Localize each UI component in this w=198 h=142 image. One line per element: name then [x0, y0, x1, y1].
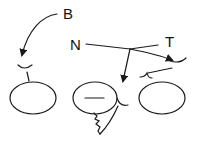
middle-wavy — [94, 113, 100, 134]
arrow-b — [22, 14, 57, 55]
arrow-n-to-right — [130, 49, 172, 60]
label-n: N — [70, 37, 81, 52]
label-t: T — [165, 34, 174, 49]
left-cell — [10, 82, 56, 114]
right-cap — [140, 73, 152, 78]
left-cap — [18, 65, 32, 68]
left-stalk — [27, 72, 29, 81]
diagram-canvas — [0, 0, 198, 142]
right-cell — [139, 82, 185, 114]
arrow-down — [123, 49, 130, 81]
label-b: B — [63, 6, 73, 21]
middle-hook — [117, 98, 128, 105]
t-stroke — [130, 45, 158, 49]
line-n — [86, 44, 130, 49]
right-link — [148, 68, 172, 73]
